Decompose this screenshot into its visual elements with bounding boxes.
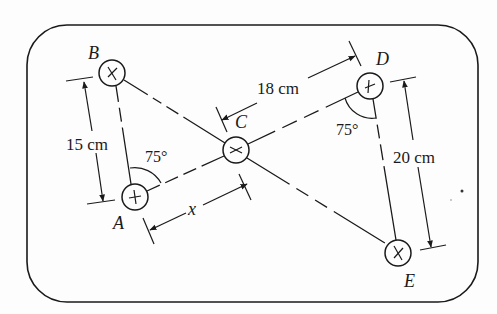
point-d (357, 73, 383, 99)
angle-arc-a (130, 168, 161, 183)
line-d-e (373, 99, 396, 240)
point-e-label: E (403, 271, 415, 291)
angle-d-label: 75° (336, 121, 358, 138)
point-c (223, 137, 249, 163)
dimension-de-label: 20 cm (393, 148, 435, 167)
angle-arc-d (345, 98, 376, 118)
dimension-cd-label: 18 cm (257, 79, 299, 98)
point-e (385, 240, 411, 266)
point-d-label: D (375, 49, 389, 69)
point-a (122, 184, 148, 210)
point-b-label: B (88, 43, 99, 63)
diagram-canvas: 15 cm 18 cm 20 cm x 75° 75° (0, 0, 497, 314)
line-b-c (124, 80, 225, 143)
line-c-e (247, 158, 388, 245)
angle-a-label: 75° (145, 148, 167, 165)
line-a-b (116, 86, 131, 184)
point-b (99, 60, 125, 86)
speck (461, 190, 464, 193)
speck (450, 199, 452, 201)
point-c-label: C (235, 112, 248, 132)
dimension-ab-label: 15 cm (66, 135, 108, 154)
point-a-label: A (112, 213, 125, 233)
dimension-ac-label: x (187, 199, 196, 219)
dimension-ac (143, 174, 251, 244)
